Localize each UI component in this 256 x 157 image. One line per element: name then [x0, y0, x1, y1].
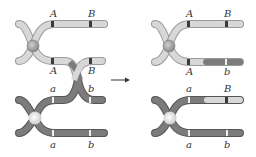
gene-band-A	[51, 21, 54, 27]
dark-homolog-right: a B a b	[155, 83, 240, 150]
centromere	[164, 112, 177, 125]
centromere	[29, 112, 42, 125]
label-a: a	[186, 139, 192, 150]
label-B: B	[87, 65, 95, 76]
centromere	[163, 40, 175, 52]
arrow-icon	[111, 78, 130, 83]
gene-band-A	[187, 21, 190, 27]
gene-band-a	[52, 130, 54, 136]
label-A: A	[49, 65, 57, 76]
gene-band-A	[51, 58, 54, 64]
label-A: A	[185, 8, 193, 19]
gene-band-b	[89, 130, 91, 136]
label-b: b	[88, 139, 94, 150]
label-A: A	[185, 66, 193, 77]
crossing-over-diagram: A B A B a b a b	[0, 0, 256, 157]
before-crossover: A B A B a b a b	[19, 8, 104, 150]
gene-band-B	[225, 97, 228, 103]
light-homolog-left: A B A B	[19, 8, 104, 76]
light-homolog-right: A B A b	[155, 8, 240, 77]
gene-band-a	[188, 130, 190, 136]
label-b: b	[88, 83, 94, 94]
gene-band-a	[188, 97, 190, 103]
gene-band-B	[89, 58, 92, 64]
gene-band-b	[226, 130, 228, 136]
label-A: A	[49, 8, 57, 19]
label-a: a	[50, 83, 56, 94]
gene-band-b	[89, 97, 91, 103]
gene-band-A	[187, 59, 190, 65]
centromere	[27, 40, 39, 52]
label-b: b	[224, 66, 230, 77]
gene-band-B	[89, 21, 92, 27]
label-a: a	[186, 83, 192, 94]
gene-band-a	[52, 97, 54, 103]
label-b: b	[224, 139, 230, 150]
label-B: B	[223, 8, 231, 19]
gene-band-B	[225, 21, 228, 27]
label-a: a	[50, 139, 56, 150]
label-B: B	[87, 8, 95, 19]
gene-band-b	[225, 59, 227, 65]
label-B: B	[223, 83, 231, 94]
after-crossover: A B A b a B a b	[155, 8, 240, 150]
